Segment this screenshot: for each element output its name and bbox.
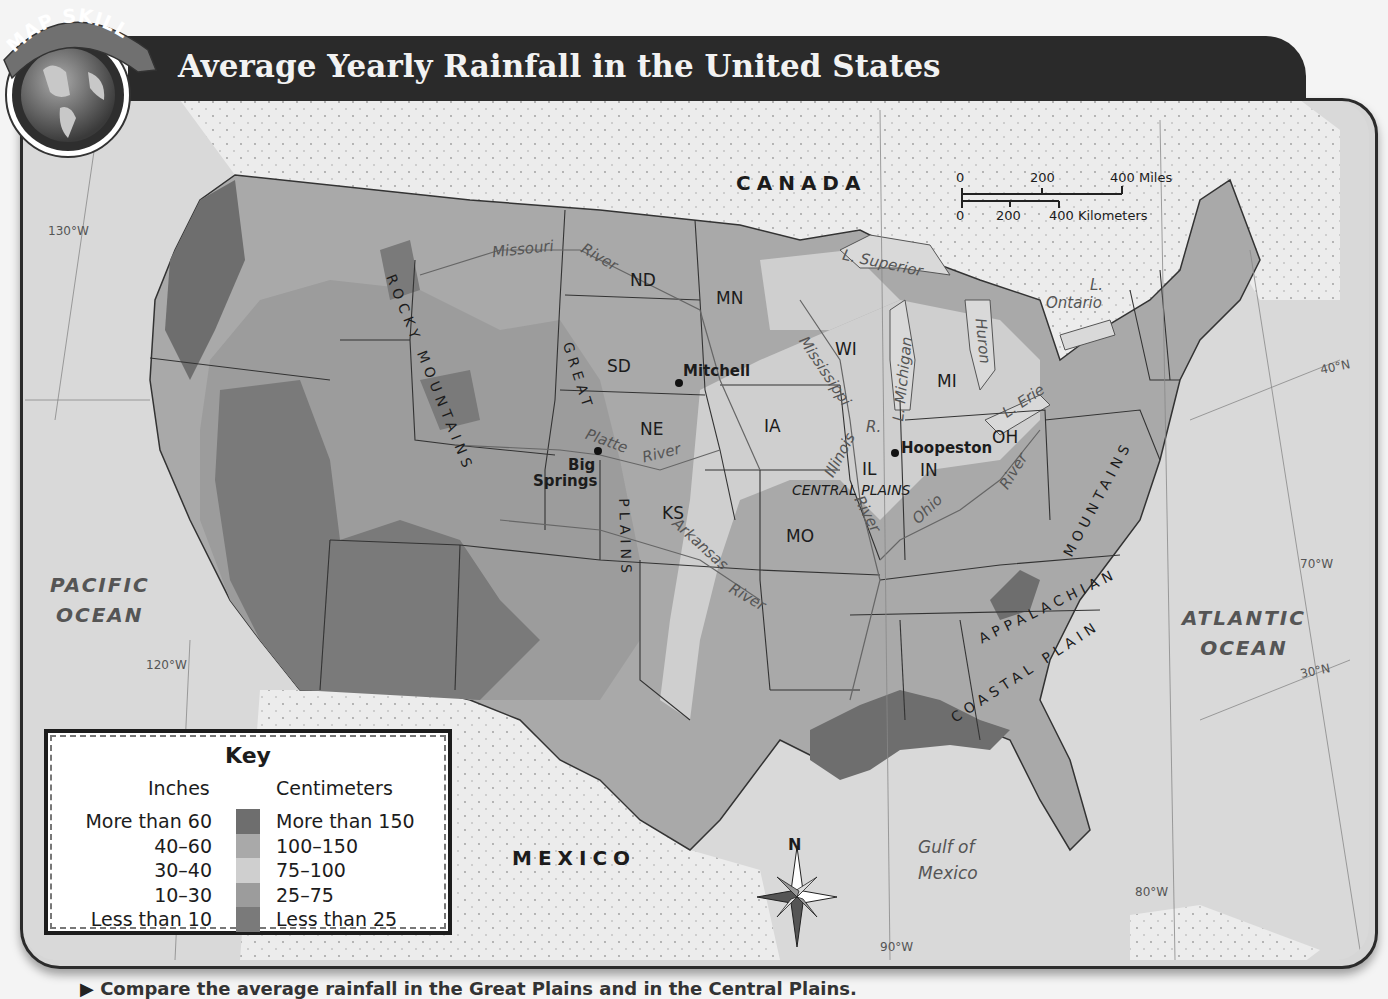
map-key: Key Inches Centimeters More than 60 More… (44, 729, 452, 935)
key-swatch-less-than-10 (236, 907, 260, 932)
state-wi: WI (835, 339, 857, 359)
scale-mi-0: 0 (956, 170, 964, 185)
key-inches-header: Inches (148, 777, 210, 799)
label-gulf-of-mexico: Gulf of Mexico (918, 834, 978, 886)
mitchell-dot (675, 379, 683, 387)
state-ne: NE (640, 419, 663, 439)
label-canada: CANADA (736, 171, 866, 195)
key-swatch-more-than-60 (236, 809, 260, 834)
caption-text: Compare the average rainfall in the Grea… (100, 978, 857, 999)
scale-km-200: 200 (996, 208, 1021, 223)
key-row: 40–60 100–150 (48, 834, 448, 859)
state-mn: MN (716, 288, 743, 308)
state-mi: MI (937, 371, 957, 391)
river-illinois-r: R. (866, 418, 881, 436)
key-title: Key (48, 743, 448, 768)
map-caption: ▶ Compare the average rainfall in the Gr… (80, 978, 857, 999)
city-hoopeston: Hoopeston (901, 439, 992, 457)
state-oh: OH (992, 427, 1018, 447)
key-cm-header: Centimeters (276, 777, 393, 799)
state-nd: ND (630, 270, 656, 290)
region-plains: PLAINS (616, 498, 635, 578)
key-row: Less than 10 Less than 25 (48, 907, 448, 932)
key-row: More than 60 More than 150 (48, 809, 448, 834)
key-swatch-30-40 (236, 858, 260, 883)
label-pacific-ocean: PACIFIC OCEAN (50, 570, 150, 630)
coord-80w: 80°W (1135, 885, 1168, 899)
state-il: IL (862, 459, 877, 479)
state-in: IN (920, 460, 938, 480)
scale-km-400: 400 Kilometers (1049, 208, 1148, 223)
map-skill-badge: MAP SKILL (0, 0, 168, 160)
coord-90w: 90°W (880, 940, 913, 954)
label-mexico: MEXICO (512, 846, 636, 870)
region-central-plains: CENTRAL PLAINS (792, 482, 911, 498)
scale-mi-400: 400 Miles (1110, 170, 1172, 185)
state-sd: SD (607, 356, 631, 376)
city-mitchell: Mitchell (683, 362, 750, 380)
scale-km-0: 0 (956, 208, 964, 223)
key-row: 30–40 75–100 (48, 858, 448, 883)
hoopeston-dot (891, 449, 899, 457)
city-big-springs-2: Springs (533, 472, 597, 490)
compass-north-label: N (788, 835, 801, 854)
caption-arrow-icon: ▶ (80, 978, 94, 999)
coord-70w: 70°W (1300, 557, 1333, 571)
lake-ontario-label-2: Ontario (1046, 294, 1102, 312)
state-mo: MO (786, 526, 814, 546)
scale-mi-200: 200 (1030, 170, 1055, 185)
key-swatch-40-60 (236, 834, 260, 859)
coord-120w: 120°W (146, 658, 187, 672)
label-atlantic-ocean: ATLANTIC OCEAN (1182, 603, 1306, 663)
key-swatch-10-30 (236, 883, 260, 908)
coord-130w: 130°W (48, 224, 89, 238)
key-row: 10–30 25–75 (48, 883, 448, 908)
state-ia: IA (764, 416, 781, 436)
key-rows: More than 60 More than 150 40–60 100–150… (48, 809, 448, 932)
map-title: Average Yearly Rainfall in the United St… (178, 48, 941, 84)
lake-ontario-label-1: L. (1090, 276, 1103, 294)
